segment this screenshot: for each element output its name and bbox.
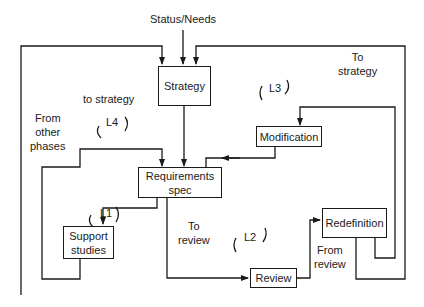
requirements-label-line2: spec — [168, 183, 191, 197]
to-strategy-right-label: To strategy — [338, 50, 377, 78]
to-review-line1: To — [178, 219, 210, 233]
support-label-line1: Support — [69, 229, 108, 243]
to-strategy-left-label: to strategy — [83, 92, 134, 106]
status-needs-label: Status/Needs — [150, 12, 216, 26]
from-review-line2: review — [314, 257, 346, 271]
from-other-line2: other — [30, 125, 65, 139]
loop-l2-label: L2 — [244, 231, 256, 243]
requirements-label-line1: Requirements — [146, 169, 214, 183]
requirements-spec-box: Requirements spec — [138, 167, 222, 198]
from-other-phases-label: From other phases — [30, 111, 65, 153]
from-other-line1: From — [30, 111, 65, 125]
strategy-label: Strategy — [164, 79, 205, 93]
from-review-label: From review — [314, 243, 346, 271]
redefinition-box: Redefinition — [322, 208, 387, 238]
modification-label: Modification — [260, 130, 319, 144]
to-strategy-right-line1: To — [338, 50, 377, 64]
review-label: Review — [255, 271, 291, 285]
support-label-line2: studies — [71, 243, 106, 257]
loop-l3-label: L3 — [269, 82, 281, 94]
to-review-label: To review — [178, 219, 210, 247]
to-strategy-right-line2: strategy — [338, 64, 377, 78]
connector-lines — [0, 0, 424, 307]
loop-l1-label: L1 — [100, 207, 112, 219]
support-studies-box: Support studies — [63, 226, 114, 259]
loop-l4-label: L4 — [106, 116, 118, 128]
modification-box: Modification — [256, 126, 322, 147]
from-other-line3: phases — [30, 139, 65, 153]
to-review-line2: review — [178, 233, 210, 247]
review-box: Review — [250, 268, 297, 288]
redefinition-label: Redefinition — [325, 216, 383, 230]
from-review-line1: From — [314, 243, 346, 257]
strategy-box: Strategy — [158, 66, 211, 106]
